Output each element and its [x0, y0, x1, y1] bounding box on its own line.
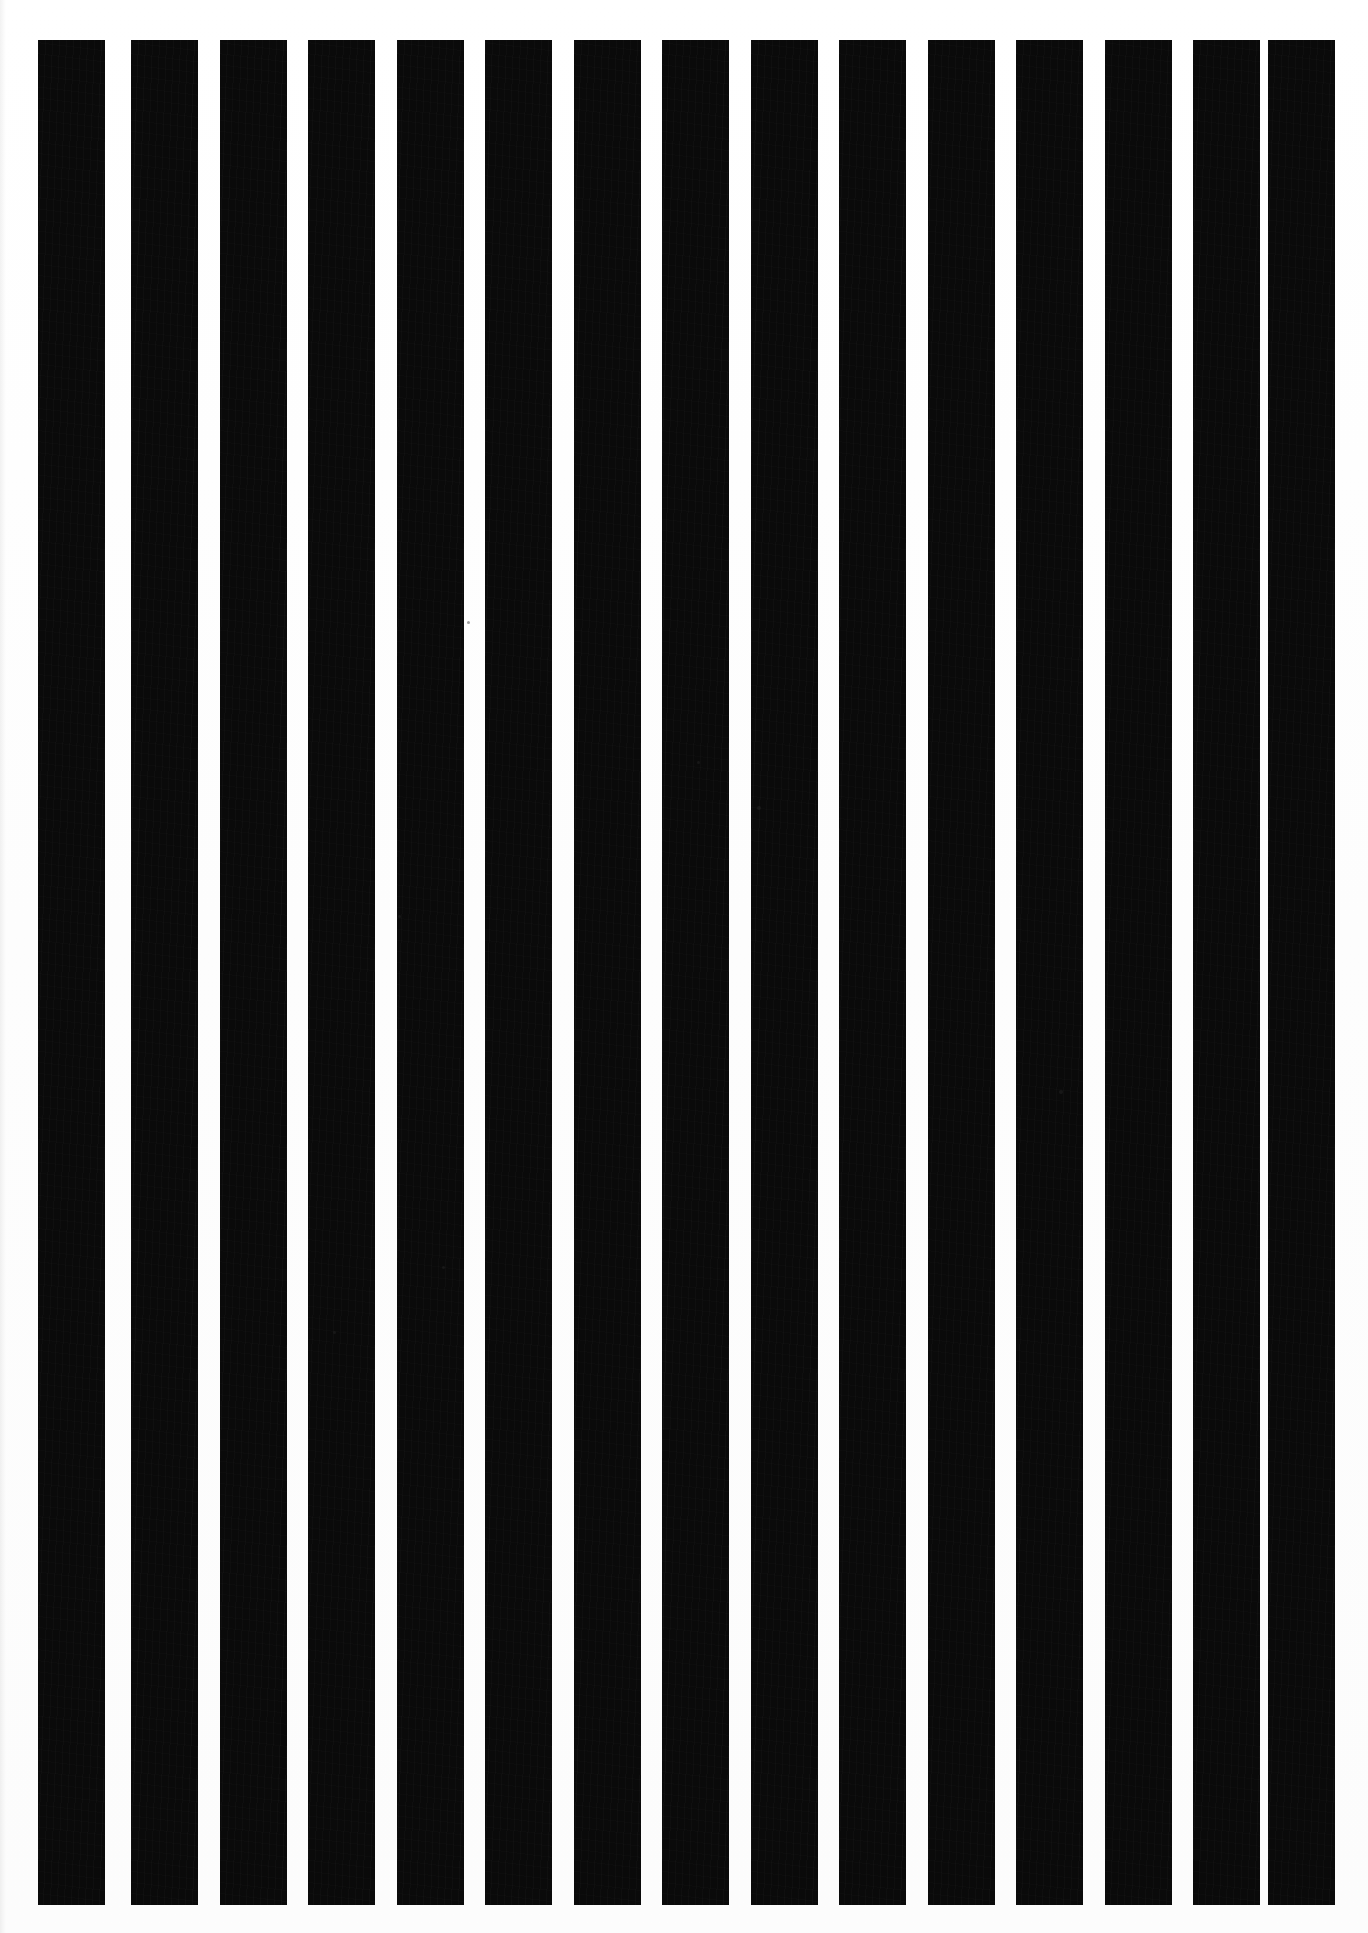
stripe-bar: [574, 40, 641, 1905]
stripe-bar: [839, 40, 906, 1905]
stripe-bar: [220, 40, 287, 1905]
speck-lower-left: [333, 1331, 336, 1334]
stripe-bar: [928, 40, 995, 1905]
stripe-bar: [751, 40, 818, 1905]
stripe-bar: [1268, 40, 1335, 1905]
stripe-bar: [131, 40, 198, 1905]
stripe-bar: [1016, 40, 1083, 1905]
speck-lower-right: [1059, 1090, 1063, 1094]
stripe-bar: [1193, 40, 1260, 1905]
stripe-bar: [662, 40, 729, 1905]
speck-lower-center: [442, 1266, 445, 1269]
stripe-bar: [397, 40, 464, 1905]
speck-upper-center: [697, 761, 700, 764]
stripe-bar: [38, 40, 105, 1905]
stripe-bar: [485, 40, 552, 1905]
speck-mid-left: [398, 915, 401, 918]
speck-mid-center: [467, 621, 470, 624]
stripe-pattern-field: [0, 0, 1368, 1933]
page-root: [0, 0, 1368, 1933]
stripe-bar: [1105, 40, 1172, 1905]
stripe-bar: [308, 40, 375, 1905]
speck-upper-right: [757, 806, 761, 810]
